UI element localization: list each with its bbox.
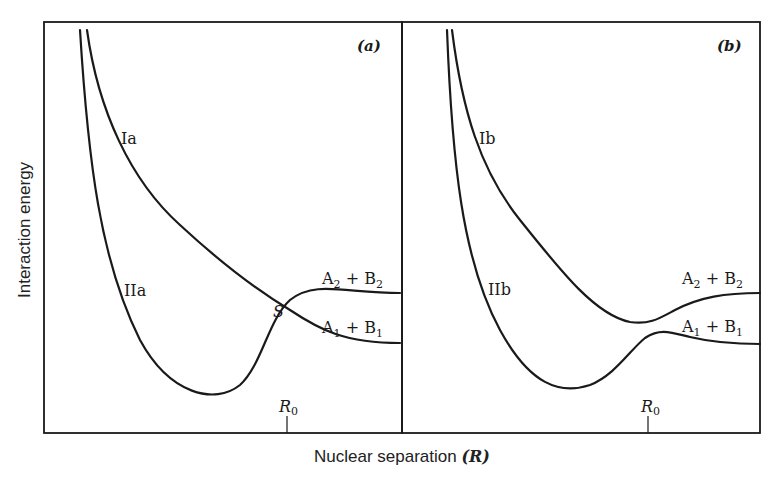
asymptote-upper-a: A2 + B2	[321, 269, 383, 291]
x-axis-label: Nuclear separation (R)	[314, 447, 490, 466]
panel-a-label: (a)	[357, 37, 381, 55]
potential-energy-diagram: (a) Ia IIa S A2 + B2 A1 + B1 R0 (b) Ib I…	[0, 0, 782, 478]
asymptote-upper-b: A2 + B2	[681, 269, 743, 291]
curve-label-IIa: IIa	[124, 281, 147, 300]
asymptote-lower-a: A1 + B1	[321, 318, 383, 340]
curve-label-IIb: IIb	[488, 280, 511, 299]
y-axis-label: Interaction energy	[15, 161, 34, 298]
curve-IIa	[80, 30, 400, 395]
asymptote-lower-b: A1 + B1	[681, 317, 743, 339]
r0-label-a: R0	[278, 397, 298, 418]
curve-label-Ia: Ia	[121, 129, 137, 148]
curve-label-Ib: Ib	[479, 129, 496, 148]
panel-b-frame	[402, 22, 760, 433]
r0-label-b: R0	[640, 397, 660, 418]
panel-b-label: (b)	[717, 37, 742, 55]
crossing-label-S: S	[273, 302, 284, 321]
